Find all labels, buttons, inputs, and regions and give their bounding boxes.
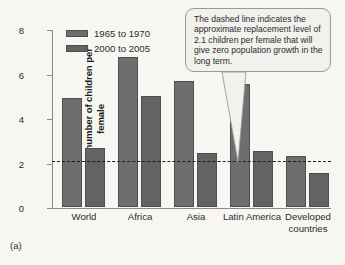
y-tick-2 — [47, 164, 52, 165]
y-tick-label-0: 0 — [4, 203, 24, 214]
legend-swatch-icon-2000-2005 — [66, 45, 88, 52]
figure-caption: (a) — [10, 240, 22, 251]
bar-world-2000-2005 — [85, 148, 105, 207]
y-tick-label-2: 2 — [4, 158, 24, 169]
legend-label-2000-2005: 2000 to 2005 — [94, 43, 150, 54]
y-tick-label-6: 6 — [4, 69, 24, 80]
chart-legend: 1965 to 1970 2000 to 2005 — [66, 27, 150, 57]
y-tick-0 — [47, 208, 52, 209]
bar-africa-1965-1970 — [118, 57, 138, 207]
y-tick-4 — [47, 119, 52, 120]
y-tick-label-4: 4 — [4, 114, 24, 125]
y-axis-line — [52, 30, 53, 209]
legend-item-2000-2005: 2000 to 2005 — [66, 42, 150, 54]
legend-item-1965-1970: 1965 to 1970 — [66, 27, 150, 39]
callout-box: The dashed line indicates the approximat… — [185, 8, 331, 72]
callout-text: The dashed line indicates the approximat… — [194, 14, 323, 66]
figure-container: 8 6 4 2 0 Average number of children per… — [0, 0, 345, 265]
legend-label-1965-1970: 1965 to 1970 — [94, 28, 150, 39]
legend-swatch-icon-1965-1970 — [66, 30, 88, 37]
bar-developed-countries-2000-2005 — [309, 173, 329, 208]
bar-latin-america-2000-2005 — [253, 151, 273, 207]
x-axis-line — [52, 208, 331, 209]
category-label-developed-countries: Developed countries — [266, 211, 345, 234]
y-tick-label-8: 8 — [4, 25, 24, 36]
bar-africa-2000-2005 — [141, 96, 161, 207]
bar-world-1965-1970 — [62, 98, 82, 207]
bar-latin-america-1965-1970 — [230, 84, 250, 208]
bar-developed-countries-1965-1970 — [286, 156, 306, 207]
replacement-level-dashed-line — [52, 161, 331, 162]
y-tick-8 — [47, 30, 52, 31]
bar-asia-1965-1970 — [174, 81, 194, 207]
y-tick-6 — [47, 75, 52, 76]
